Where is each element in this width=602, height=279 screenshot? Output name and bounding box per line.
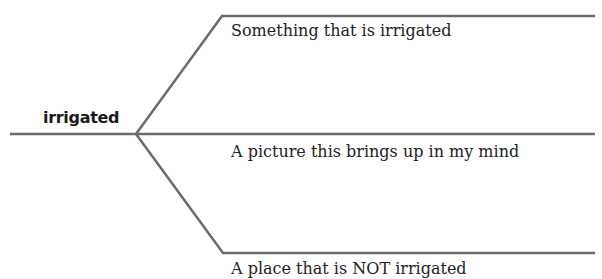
branch-label-middle: A picture this brings up in my mind	[231, 142, 519, 161]
branch-label-bottom: A place that is NOT irrigated	[231, 259, 467, 278]
center-word: irrigated	[43, 108, 119, 127]
branch-lines	[0, 0, 602, 279]
branch-label-top: Something that is irrigated	[231, 21, 451, 40]
